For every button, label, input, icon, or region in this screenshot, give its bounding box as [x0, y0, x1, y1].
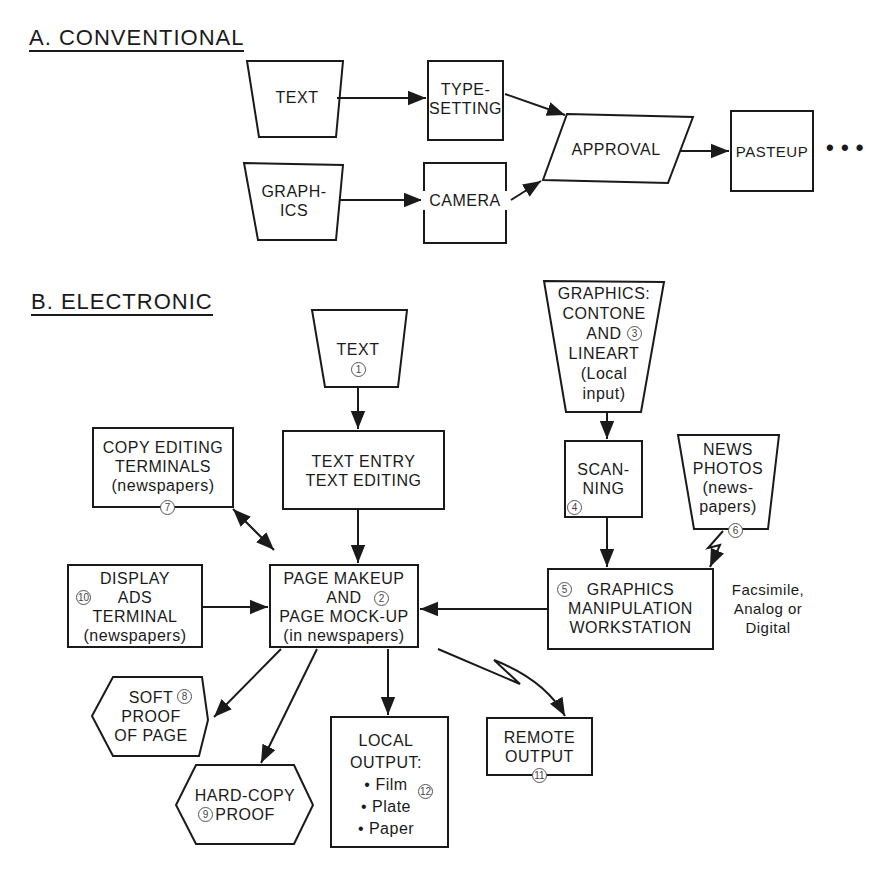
- callout-2: 2: [374, 591, 389, 606]
- annotation-facsimile: Facsimile, Analog or Digital: [718, 580, 818, 637]
- node-typesetting: TYPE- SETTING: [428, 80, 503, 118]
- node-text: TEXT: [262, 88, 332, 107]
- node-camera: CAMERA: [421, 191, 509, 210]
- callout-5: 5: [557, 582, 572, 597]
- node-graphics-input: GRAPHICS: CONTONE AND LINEART (Local inp…: [546, 284, 662, 404]
- callout-7: 7: [160, 500, 175, 515]
- callout-6: 6: [728, 523, 743, 538]
- node-text-entry: TEXT ENTRY TEXT EDITING: [283, 452, 444, 490]
- callout-4: 4: [567, 500, 582, 515]
- callout-8: 8: [177, 689, 192, 704]
- node-display-ads: DISPLAY ADS TERMINAL (newspapers): [68, 569, 202, 645]
- callout-12: 12: [418, 784, 433, 799]
- node-approval: APPROVAL: [556, 140, 676, 159]
- section-title-conventional: A. CONVENTIONAL: [29, 26, 244, 52]
- continuation-dots: • • •: [815, 138, 875, 157]
- section-title-electronic: B. ELECTRONIC: [31, 290, 213, 316]
- callout-3: 3: [627, 326, 642, 341]
- node-text-input: TEXT: [318, 340, 398, 359]
- callout-9: 9: [198, 807, 213, 822]
- callout-10: 10: [76, 590, 91, 605]
- node-page-makeup: PAGE MAKEUP AND PAGE MOCK-UP (in newspap…: [270, 569, 418, 645]
- node-pasteup: PASTEUP: [731, 142, 813, 161]
- node-remote-output: REMOTE OUTPUT: [487, 728, 592, 766]
- node-scanning: SCAN- NING: [565, 460, 642, 498]
- node-copy-editing: COPY EDITING TERMINALS (newspapers): [93, 438, 233, 495]
- node-graphics-workstation: GRAPHICS MANIPULATION WORKSTATION: [548, 580, 713, 637]
- callout-11: 11: [532, 768, 547, 783]
- node-news-photos: NEWS PHOTOS (news- papers): [680, 440, 776, 516]
- callout-1: 1: [351, 362, 366, 377]
- node-graphics: GRAPH- ICS: [250, 182, 338, 220]
